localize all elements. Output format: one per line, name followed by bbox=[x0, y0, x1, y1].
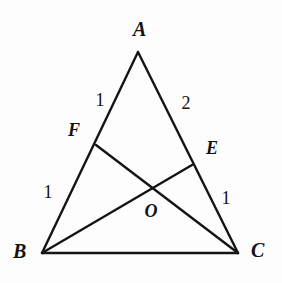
geometry-figure: A B C F E O 1 2 1 1 bbox=[0, 0, 282, 283]
segment-length-fb: 1 bbox=[44, 183, 53, 201]
side-ac bbox=[138, 52, 238, 253]
triangle-diagram-svg bbox=[0, 0, 282, 283]
vertex-label-c: C bbox=[251, 240, 265, 260]
point-label-e: E bbox=[206, 139, 218, 157]
cevian-be bbox=[42, 165, 192, 253]
cevian-fc bbox=[96, 145, 238, 253]
vertex-label-b: B bbox=[13, 241, 27, 261]
segment-length-ae: 2 bbox=[182, 94, 191, 112]
point-label-f: F bbox=[68, 121, 80, 139]
segment-length-af: 1 bbox=[96, 91, 105, 109]
point-label-o: O bbox=[145, 202, 158, 220]
side-ab bbox=[42, 52, 138, 253]
segment-length-ec: 1 bbox=[222, 189, 231, 207]
vertex-label-a: A bbox=[133, 19, 147, 39]
